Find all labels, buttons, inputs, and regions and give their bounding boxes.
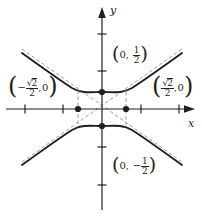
point-top-vertex (99, 89, 105, 95)
paren-open: ( (112, 42, 119, 64)
fraction-denominator: 2 (26, 88, 38, 98)
bottom-vertex-minus: − (133, 160, 141, 171)
point-left-covertex (75, 106, 81, 112)
axes-group (6, 16, 186, 210)
paren-open: ( (112, 153, 119, 175)
fraction-numerator: 1 (141, 157, 149, 166)
radicand: 2 (167, 78, 173, 88)
y-axis-label: y (110, 5, 116, 16)
label-right-covertex: ( √2 2 ,0) (152, 78, 193, 99)
right-point-y: 0 (178, 82, 184, 93)
bottom-vertex-comma: , (126, 160, 130, 171)
top-vertex-comma: , (126, 49, 130, 60)
label-bottom-vertex: (0, − 1 2 ) (112, 157, 156, 177)
fraction-numerator: √2 (161, 78, 173, 88)
fraction-denominator: 2 (141, 166, 149, 176)
radicand: 2 (32, 78, 38, 88)
label-top-vertex: (0, 1 2 ) (112, 46, 148, 66)
hyperbola-figure: y x (0, 1 2 ) (0, − 1 2 ) (− √2 2 ,0) ( … (0, 0, 202, 217)
point-right-covertex (123, 106, 129, 112)
right-point-fraction: √2 2 (161, 78, 173, 99)
paren-close: ) (184, 72, 193, 100)
fraction-numerator: √2 (26, 78, 38, 88)
left-point-fraction: √2 2 (26, 78, 38, 99)
point-bottom-vertex (99, 123, 105, 129)
bottom-vertex-fraction: 1 2 (141, 157, 149, 177)
label-left-covertex: (− √2 2 ,0) (8, 78, 58, 99)
y-axis-arrowhead (98, 7, 106, 18)
paren-close: ) (140, 42, 147, 64)
x-axis-label: x (188, 118, 194, 129)
paren-close: ) (149, 153, 156, 175)
paren-open: ( (8, 72, 17, 100)
plot-canvas (0, 0, 202, 217)
paren-close: ) (48, 72, 57, 100)
paren-open: ( (152, 72, 161, 100)
fraction-denominator: 2 (161, 88, 173, 98)
left-point-minus: − (17, 82, 25, 93)
x-axis-arrowhead (184, 105, 195, 113)
